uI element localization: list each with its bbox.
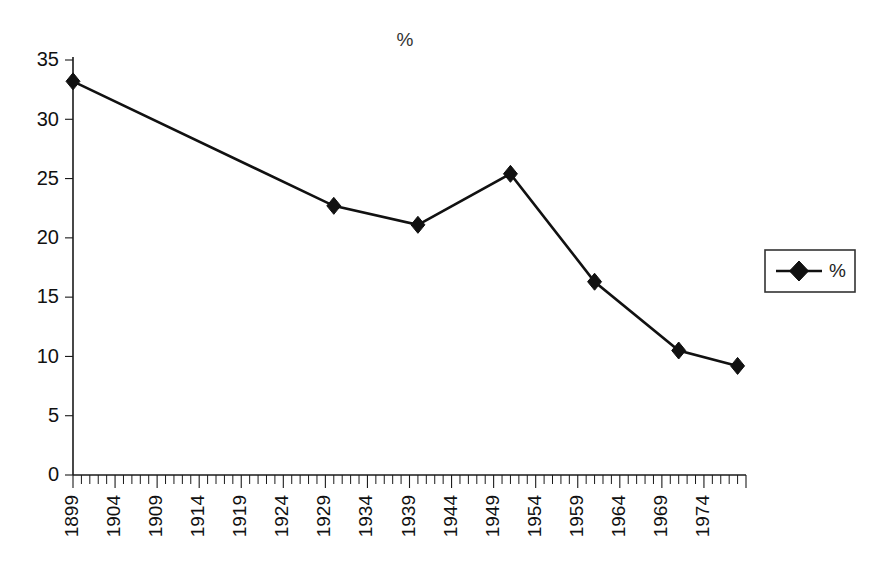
x-tick-label: 1899 [61, 495, 82, 537]
x-tick-label: 1934 [355, 495, 376, 538]
x-tick-label: 1909 [145, 495, 166, 537]
y-axis-tick-marks [65, 60, 73, 475]
series-line-percent [73, 81, 738, 366]
x-axis-tick-marks [73, 475, 746, 488]
y-tick-label: 30 [37, 108, 59, 130]
x-tick-label: 1974 [692, 495, 713, 538]
y-tick-label: 25 [37, 167, 59, 189]
legend: % [765, 250, 855, 292]
data-point-marker [672, 342, 686, 359]
x-tick-label: 1914 [187, 495, 208, 538]
data-point-marker [66, 73, 80, 90]
series-markers-percent [66, 73, 745, 375]
data-point-marker [731, 357, 745, 374]
x-tick-label: 1949 [482, 495, 503, 537]
y-tick-label: 35 [37, 48, 59, 70]
x-tick-label: 1924 [271, 495, 292, 538]
y-tick-label: 10 [37, 345, 59, 367]
line-chart: % 05101520253035 18991904190919141919192… [0, 0, 890, 561]
y-tick-label: 0 [48, 463, 59, 485]
chart-title: % [397, 29, 414, 50]
x-tick-label: 1944 [440, 495, 461, 538]
x-tick-label: 1964 [608, 495, 629, 538]
x-tick-label: 1904 [103, 495, 124, 538]
y-tick-label: 20 [37, 226, 59, 248]
x-tick-label: 1969 [650, 495, 671, 537]
y-tick-label: 15 [37, 285, 59, 307]
y-axis-tick-labels: 05101520253035 [37, 48, 59, 485]
x-tick-label: 1929 [313, 495, 334, 537]
y-tick-label: 5 [48, 404, 59, 426]
x-axis-tick-labels: 1899190419091914191919241929193419391944… [61, 495, 713, 538]
x-tick-label: 1939 [398, 495, 419, 537]
data-point-marker [411, 216, 425, 233]
x-tick-label: 1959 [566, 495, 587, 537]
data-point-marker [327, 197, 341, 214]
x-tick-label: 1919 [229, 495, 250, 537]
legend-label-percent: % [829, 260, 846, 281]
x-tick-label: 1954 [524, 495, 545, 538]
chart-container: % 05101520253035 18991904190919141919192… [0, 0, 890, 561]
